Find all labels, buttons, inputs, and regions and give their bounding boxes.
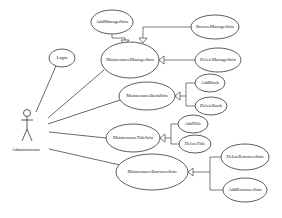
use-case-add-book[interactable]: AddBook xyxy=(195,74,225,92)
use-case-label: AddBorrowerInfo xyxy=(228,187,262,192)
gen-arrow-icon xyxy=(175,92,180,100)
use-case-browse-manager[interactable]: BrowseManagerInfo xyxy=(191,15,239,39)
gen-arrow-icon xyxy=(160,134,165,142)
assoc-maintenance-book xyxy=(48,100,120,124)
gen-borrower-branch xyxy=(210,157,223,190)
stick-figure-icon xyxy=(21,110,33,142)
assoc-login xyxy=(36,66,56,112)
use-case-diagram: AddManagerInfo BrowseManagerInfo Mainten… xyxy=(0,0,282,218)
use-case-label: MaintenanceManagerInfo xyxy=(106,57,154,62)
use-case-label: AddManagerInfo xyxy=(96,19,129,24)
use-case-label: BrowseManagerInfo xyxy=(196,24,235,29)
use-case-delete-borrower[interactable]: DeleteBorrowerInfo xyxy=(221,144,269,170)
use-case-maintenance-borrower[interactable]: MaintenanceBorrowerInfo xyxy=(116,154,188,190)
use-case-label: MaintenanceBorrowerInfo xyxy=(128,169,178,174)
use-case-label: DeleteBorrowerInfo xyxy=(226,154,264,159)
gen-arrow-icon xyxy=(188,168,193,176)
use-case-label: Login xyxy=(57,55,69,60)
use-case-delete-title[interactable]: DeleteTitle xyxy=(179,135,211,153)
use-case-delete-manager[interactable]: DeleteManagerInfo xyxy=(195,48,241,72)
gen-arrow-icon xyxy=(159,56,164,64)
gen-add-manager xyxy=(112,34,125,40)
use-case-label: AddBook xyxy=(201,80,220,85)
use-case-label: DeleteBook xyxy=(200,103,223,108)
use-case-maintenance-book[interactable]: MaintenanceBookInfo xyxy=(119,82,175,110)
actor-administrator[interactable]: Administrator xyxy=(12,110,40,153)
use-case-label: DeleteTitle xyxy=(185,141,206,146)
assoc-maintenance-title xyxy=(49,132,106,138)
use-case-label: MaintenanceBookInfo xyxy=(126,93,168,98)
use-case-label: DeleteManagerInfo xyxy=(200,57,237,62)
use-case-add-borrower[interactable]: AddBorrowerInfo xyxy=(223,178,267,202)
use-case-maintenance-manager[interactable]: MaintenanceManagerInfo xyxy=(101,42,159,78)
gen-arrow-icon xyxy=(139,38,147,43)
use-case-label: AddTitle xyxy=(185,121,201,126)
actor-label: Administrator xyxy=(12,147,40,152)
associations xyxy=(36,66,120,165)
assoc-maintenance-manager xyxy=(48,70,104,118)
use-case-label: MaintenanceTitleInfo xyxy=(113,135,154,140)
use-case-add-manager[interactable]: AddManagerInfo xyxy=(91,10,133,34)
assoc-maintenance-borrower xyxy=(49,149,120,165)
use-case-delete-book[interactable]: DeleteBook xyxy=(195,97,227,115)
use-case-maintenance-title[interactable]: MaintenanceTitleInfo xyxy=(106,124,160,152)
gen-browse-manager xyxy=(143,27,191,38)
use-case-add-title[interactable]: AddTitle xyxy=(178,115,208,133)
gen-title-branch xyxy=(171,124,179,144)
use-case-login[interactable]: Login xyxy=(49,49,75,67)
gen-book-branch xyxy=(186,83,195,106)
